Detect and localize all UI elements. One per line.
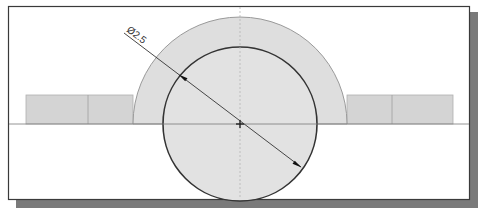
drawing-canvas: Ø2.5 xyxy=(0,0,480,212)
left-bar xyxy=(26,95,133,124)
right-bar xyxy=(347,95,453,124)
